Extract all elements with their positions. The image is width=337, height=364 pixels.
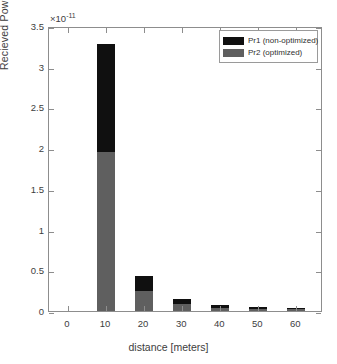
bar-segment-pr2 xyxy=(97,152,115,311)
y-tick-label: 0.5 xyxy=(14,265,44,276)
y-axis-exponent-base: ×10 xyxy=(50,13,66,24)
x-axis-title: distance [meters] xyxy=(0,341,337,353)
legend-swatch-pr1 xyxy=(223,37,244,45)
y-tick-mark xyxy=(49,313,54,314)
x-tick-mark xyxy=(144,306,145,311)
x-tick-mark xyxy=(220,306,221,311)
x-tick-mark xyxy=(68,28,69,33)
y-tick-mark xyxy=(316,313,321,314)
bar-segment-pr1 xyxy=(135,276,153,291)
y-axis-exponent-power: -11 xyxy=(66,12,76,19)
x-tick-mark xyxy=(106,306,107,311)
y-tick-mark xyxy=(316,69,321,70)
x-tick-label: 10 xyxy=(100,318,111,329)
legend-swatch-pr2 xyxy=(223,49,244,57)
y-tick-label: 1 xyxy=(14,225,44,236)
x-tick-mark xyxy=(258,306,259,311)
y-tick-mark xyxy=(316,28,321,29)
y-tick-label: 2.5 xyxy=(14,102,44,113)
y-tick-mark xyxy=(49,232,54,233)
y-tick-label: 0 xyxy=(14,306,44,317)
x-tick-label: 40 xyxy=(214,318,225,329)
bar-10m xyxy=(97,44,115,311)
y-tick-mark xyxy=(49,69,54,70)
x-tick-mark xyxy=(144,28,145,33)
y-tick-mark xyxy=(316,191,321,192)
legend-label-pr1: Pr1 (non-optimized) xyxy=(248,36,318,45)
y-tick-label: 3.5 xyxy=(14,21,44,32)
chart-legend: Pr1 (non-optimized) Pr2 (optimized) xyxy=(219,30,318,63)
y-tick-mark xyxy=(316,150,321,151)
y-tick-mark xyxy=(316,272,321,273)
x-tick-label: 50 xyxy=(252,318,263,329)
legend-entry: Pr1 (non-optimized) xyxy=(223,35,314,46)
x-tick-label: 0 xyxy=(64,318,69,329)
x-tick-mark xyxy=(68,306,69,311)
y-tick-label: 1.5 xyxy=(14,184,44,195)
y-tick-mark xyxy=(49,28,54,29)
bar-segment-pr1 xyxy=(97,44,115,152)
y-tick-mark xyxy=(49,272,54,273)
x-tick-mark xyxy=(182,306,183,311)
legend-label-pr2: Pr2 (optimized) xyxy=(248,48,302,57)
figure-canvas: ×10-11 Recieved Power [Watts] distance [… xyxy=(0,0,337,364)
x-tick-mark xyxy=(106,28,107,33)
y-tick-mark xyxy=(316,232,321,233)
y-tick-label: 3 xyxy=(14,62,44,73)
y-axis-exponent: ×10-11 xyxy=(50,12,76,24)
x-tick-mark xyxy=(296,306,297,311)
y-tick-mark xyxy=(316,109,321,110)
x-tick-label: 60 xyxy=(290,318,301,329)
bars-layer xyxy=(49,28,321,311)
legend-entry: Pr2 (optimized) xyxy=(223,47,314,58)
x-tick-label: 30 xyxy=(176,318,187,329)
y-tick-mark xyxy=(49,109,54,110)
y-axis-title: Recieved Power [Watts] xyxy=(0,0,10,70)
x-tick-label: 20 xyxy=(138,318,149,329)
y-tick-mark xyxy=(49,150,54,151)
y-tick-label: 2 xyxy=(14,143,44,154)
plot-area xyxy=(48,27,322,312)
x-tick-mark xyxy=(182,28,183,33)
y-tick-mark xyxy=(49,191,54,192)
